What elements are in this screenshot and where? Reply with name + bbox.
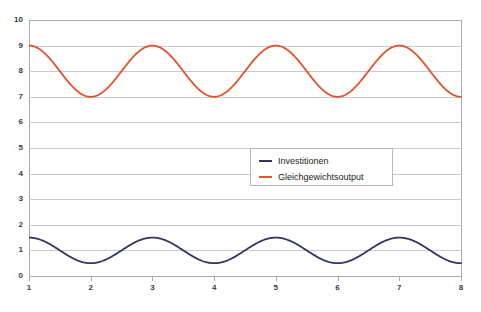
legend-item-gleichgewichtsoutput: Gleichgewichtsoutput — [259, 169, 392, 185]
y-tick-label: 8 — [0, 66, 23, 75]
chart-legend: Investitionen Gleichgewichtsoutput — [250, 148, 393, 186]
y-tick-label: 1 — [0, 245, 23, 254]
line-chart: 012345678910 12345678 Investitionen Glei… — [0, 0, 481, 312]
x-tick-mark — [91, 277, 92, 281]
y-tick-label: 10 — [0, 15, 23, 24]
y-tick-label: 4 — [0, 169, 23, 178]
y-tick-label: 0 — [0, 271, 23, 280]
series-line-investitionen — [29, 238, 461, 264]
x-tick-mark — [276, 277, 277, 281]
legend-label-gleichgewichtsoutput: Gleichgewichtsoutput — [278, 173, 364, 182]
x-tick-mark — [399, 277, 400, 281]
legend-swatch-gleichgewichtsoutput — [259, 176, 272, 178]
legend-label-investitionen: Investitionen — [278, 157, 329, 166]
x-tick-mark — [152, 277, 153, 281]
x-tick-label: 4 — [200, 283, 228, 292]
series-line-gleichgewichtsoutput — [29, 46, 461, 97]
plot-area — [29, 20, 462, 277]
x-tick-label: 3 — [138, 283, 166, 292]
y-tick-label: 2 — [0, 220, 23, 229]
x-tick-mark — [338, 277, 339, 281]
y-tick-label: 5 — [0, 143, 23, 152]
legend-swatch-investitionen — [259, 160, 272, 162]
y-tick-label: 6 — [0, 117, 23, 126]
x-tick-label: 6 — [324, 283, 352, 292]
x-tick-label: 7 — [385, 283, 413, 292]
x-tick-mark — [29, 277, 30, 281]
chart-title-fragment — [0, 0, 481, 1]
x-tick-mark — [461, 277, 462, 281]
y-tick-label: 9 — [0, 41, 23, 50]
x-tick-mark — [214, 277, 215, 281]
x-tick-label: 8 — [447, 283, 475, 292]
legend-item-investitionen: Investitionen — [259, 153, 392, 169]
y-tick-label: 7 — [0, 92, 23, 101]
series-lines — [29, 20, 462, 277]
x-tick-label: 5 — [262, 283, 290, 292]
x-tick-label: 1 — [15, 283, 43, 292]
x-tick-label: 2 — [77, 283, 105, 292]
y-tick-label: 3 — [0, 194, 23, 203]
